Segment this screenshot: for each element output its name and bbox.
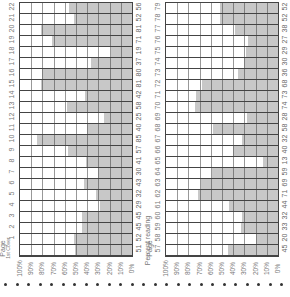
dot (246, 283, 249, 286)
axis-tick-label: 30% (94, 257, 101, 281)
dot (39, 283, 42, 286)
bar (68, 146, 132, 156)
bar (242, 135, 278, 145)
bar (85, 91, 132, 101)
axis-tick-label: 10% (116, 257, 123, 281)
axis-tick-label: 90% (173, 257, 180, 281)
value-label: 56 (135, 0, 142, 14)
axis-tick-label: 30% (240, 257, 247, 281)
dot (142, 283, 145, 286)
bar (74, 14, 132, 24)
bar (75, 245, 132, 255)
dot (131, 283, 134, 286)
bar (263, 157, 278, 167)
bar (91, 58, 132, 68)
dot (154, 283, 157, 286)
axis-tick-label: 100% (162, 257, 169, 281)
dot (73, 283, 76, 286)
grid-line (222, 3, 223, 256)
bar (244, 58, 278, 68)
bar (82, 223, 132, 233)
dot (108, 283, 111, 286)
bar (246, 47, 278, 57)
grid-line (87, 3, 88, 256)
bar (248, 36, 278, 46)
dot (27, 283, 30, 286)
bar (82, 212, 132, 222)
dot (211, 283, 214, 286)
bar (229, 201, 278, 211)
dotted-rule (0, 283, 290, 289)
bar (37, 135, 132, 145)
value-label: 52 (281, 0, 288, 14)
axis-tick-label: 10% (262, 257, 269, 281)
bar (98, 168, 132, 178)
dot (16, 283, 19, 286)
bar (104, 113, 132, 123)
grid-line (200, 3, 201, 256)
axis-tick-label: 90% (27, 257, 34, 281)
first-cover-label: 1st Cover (5, 237, 11, 258)
bar (69, 3, 132, 13)
axis-tick-label: 60% (60, 257, 67, 281)
grid-line (188, 3, 189, 256)
axis-tick-label: 70% (195, 257, 202, 281)
bar (196, 91, 278, 101)
axis-tick-label: 50% (218, 257, 225, 281)
axis-tick-label: 20% (105, 257, 112, 281)
grid-line (267, 3, 268, 256)
bar (84, 179, 132, 189)
dot (280, 283, 283, 286)
bar (242, 212, 278, 222)
grid-line (233, 3, 234, 256)
bar (247, 113, 278, 123)
dot (165, 283, 168, 286)
grid-line (256, 3, 257, 256)
axis-tick-label: 100% (16, 257, 23, 281)
bar (100, 201, 132, 211)
percent-reading-label: Percent reading (144, 216, 151, 265)
chart-grid (19, 2, 133, 257)
grid-line (98, 3, 99, 256)
dot (177, 283, 180, 286)
grid-line (54, 3, 55, 256)
bar (235, 25, 278, 35)
grid-line (42, 3, 43, 256)
grid-line (177, 3, 178, 256)
bar (74, 234, 132, 244)
grid-line (76, 3, 77, 256)
grid-line (244, 3, 245, 256)
bar (241, 223, 278, 233)
grid-line (65, 3, 66, 256)
page-label: 22 (8, 0, 15, 14)
axis-tick-label: 0% (128, 257, 135, 281)
dot (119, 283, 122, 286)
bar (195, 102, 278, 112)
axis-tick-label: 60% (206, 257, 213, 281)
page-label: 79 (154, 0, 161, 14)
dot (4, 283, 7, 286)
axis-tick-label: 70% (49, 257, 56, 281)
percent-reading-chart-pages-57-79: 5745582059336032614462716369645965136640… (145, 2, 290, 284)
axis-tick-label: 50% (72, 257, 79, 281)
bar (220, 14, 278, 24)
chart-grid (165, 2, 279, 257)
axis-tick-label: 0% (274, 257, 281, 281)
dot (85, 283, 88, 286)
axis-tick-label: 40% (229, 257, 236, 281)
axis-tick-label: 80% (38, 257, 45, 281)
dot (200, 283, 203, 286)
dot (257, 283, 260, 286)
dot (223, 283, 226, 286)
axis-tick-label: 80% (184, 257, 191, 281)
dot (50, 283, 53, 286)
grid-line (31, 3, 32, 256)
dot (62, 283, 65, 286)
grid-line (110, 3, 111, 256)
bar (228, 245, 278, 255)
dot (188, 283, 191, 286)
dot (96, 283, 99, 286)
grid-line (121, 3, 122, 256)
axis-tick-label: 20% (251, 257, 258, 281)
bar (220, 3, 278, 13)
